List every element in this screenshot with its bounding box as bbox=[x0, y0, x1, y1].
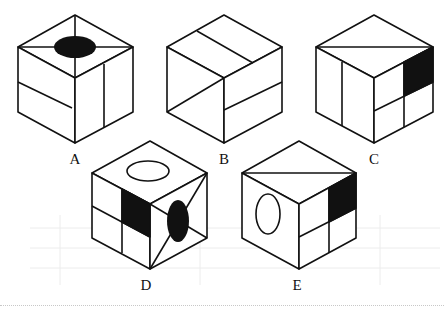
option-label-b: B bbox=[219, 151, 229, 168]
cube-diagram: A B C D E bbox=[0, 0, 444, 310]
option-label-c: C bbox=[369, 151, 379, 168]
white-ellipse-icon bbox=[127, 161, 169, 181]
option-label-d: D bbox=[141, 277, 152, 294]
white-ellipse-icon bbox=[256, 194, 280, 234]
cube-e bbox=[242, 141, 356, 269]
black-ellipse-icon bbox=[167, 200, 189, 242]
option-label-e: E bbox=[292, 277, 301, 294]
black-ellipse-icon bbox=[54, 36, 96, 58]
bottom-divider bbox=[0, 305, 444, 306]
cube-a bbox=[18, 15, 133, 143]
cube-b bbox=[167, 15, 282, 143]
cube-c bbox=[316, 15, 433, 143]
option-label-a: A bbox=[70, 151, 81, 168]
cube-d bbox=[92, 141, 207, 269]
